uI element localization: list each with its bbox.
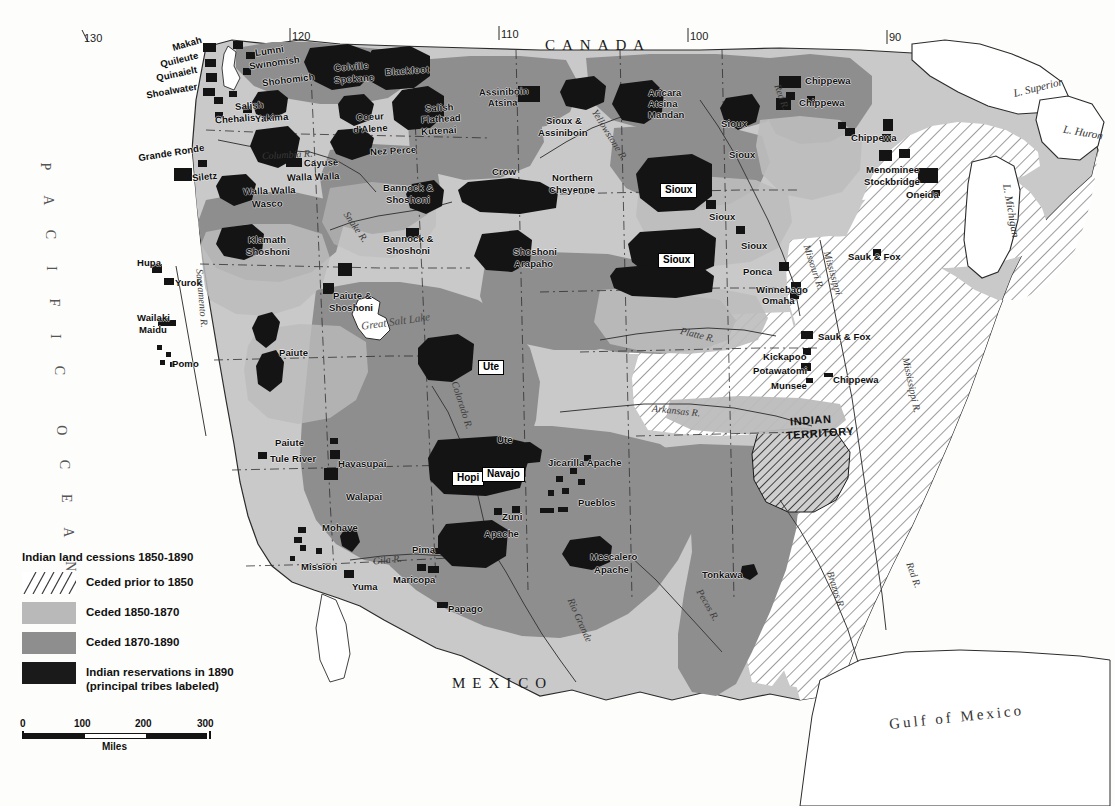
tribe-label-paiute--58: Paiute & <box>333 291 372 301</box>
tribe-label-shoshoni-52: Shoshoni <box>246 247 290 257</box>
scale-bar: 0 100 200 300 Miles <box>22 718 222 752</box>
tribe-label-paiute-61: Paiute <box>275 438 304 448</box>
pacific-ocean-letter-11: A <box>61 527 76 539</box>
legend-row-ceded-prior-1850: Ceded prior to 1850 <box>22 572 272 594</box>
tribe-label-aricara-22: Aricara <box>648 88 681 98</box>
scale-bar-graphic <box>22 731 211 739</box>
tribe-label-wasco-48: Wasco <box>252 198 283 209</box>
tribe-label-jicarilla-apache-74: Jicarilla Apache <box>548 458 622 468</box>
legend-row-ceded-1850-1870: Ceded 1850-1870 <box>22 602 272 624</box>
scale-tick-labels: 0 100 200 300 <box>22 718 222 731</box>
tribe-label-tule-river-62: Tule River <box>270 454 316 464</box>
tribe-label-mission-64: Mission <box>301 562 337 572</box>
tribe-label-menominee-28: Menominee <box>866 165 919 175</box>
graticule-label-100: 100 <box>690 31 708 43</box>
country-label-mexico: MEXICO <box>452 676 553 692</box>
tribe-label-sauk-fox-82: Sauk & Fox <box>848 252 901 262</box>
tribe-label-kickapoo-84: Kickapoo <box>763 352 807 362</box>
tribe-label-walla-walla-46: Walla Walla <box>287 171 340 183</box>
graticule-label-130: 130 <box>84 33 102 45</box>
tribe-label-cheyenne-37: Cheyenne <box>549 185 595 195</box>
tribe-label-pima-69: Pima <box>412 545 435 555</box>
tribe-label-potawatomi-85: Potawatomi <box>753 366 807 376</box>
tribe-label-winnebago-80: Winnebago <box>756 285 808 295</box>
legend-label-reservations: Indian reservations in 1890 <box>86 665 234 679</box>
legend-label-ceded-1870-1890: Ceded 1870-1890 <box>86 632 179 649</box>
graticule-label-120: 120 <box>292 31 310 43</box>
tribe-label-paiute-60: Paiute <box>279 348 308 358</box>
boxed-tribe-label-sioux-0: Sioux <box>660 183 697 198</box>
pacific-ocean-letter-2: C <box>43 230 58 241</box>
tribe-label-arapaho-39: Arapaho <box>514 259 553 269</box>
graticule-label-110: 110 <box>501 29 519 41</box>
tribe-label-mandan-24: Mandan <box>648 110 685 120</box>
scale-unit-label: Miles <box>22 741 207 752</box>
tribe-label-maricopa-70: Maricopa <box>393 575 436 585</box>
pacific-ocean-letter-5: I <box>47 334 62 341</box>
scale-tick-300: 300 <box>197 718 214 729</box>
tribe-label-sioux-32: Sioux <box>729 150 755 160</box>
tribe-label-apache-68: Apache <box>484 529 519 539</box>
graticule-label-90: 90 <box>889 32 901 44</box>
hatch-swatch-icon <box>22 572 76 594</box>
legend-title: Indian land cessions 1850-1890 <box>22 551 272 563</box>
tribe-label-shoshoni-38: Shoshoni <box>513 247 557 257</box>
tribe-label-sauk-fox-83: Sauk & Fox <box>818 332 871 342</box>
tribe-label-shoshoni-59: Shoshoni <box>329 303 373 313</box>
tribe-label-crow-35: Crow <box>492 167 516 177</box>
pacific-ocean-letter-8: O <box>54 425 69 437</box>
scale-tick-100: 100 <box>74 718 91 729</box>
tribe-label-atsina-19: Atsina <box>488 97 518 108</box>
legend-row-ceded-1870-1890: Ceded 1870-1890 <box>22 632 272 654</box>
tribe-label-walla-walla-47: Walla Walla <box>243 185 296 197</box>
tribe-label-walapai-66: Walapai <box>346 492 382 502</box>
tribe-label-yuma-65: Yuma <box>352 582 378 592</box>
tribe-label-kutenai-17: Kutenai <box>421 125 457 137</box>
pacific-ocean-letter-6: C <box>52 366 67 377</box>
tribe-label-shoshoni-41: Shoshoni <box>386 195 430 205</box>
tribe-label-klamath-51: Klamath <box>248 235 286 245</box>
pacific-ocean-letter-9: C <box>56 460 71 471</box>
tribe-label-atsina-23: Atsina <box>648 99 678 109</box>
tribe-label-mescalero-75: Mescalero <box>590 552 637 562</box>
tribe-label-chippewa-25: Chippewa <box>805 76 851 86</box>
legend-swatch-light-gray <box>22 602 76 624</box>
boxed-tribe-label-ute-2: Ute <box>478 360 504 375</box>
tribe-label-tonkawa-78: Tonkawa <box>702 570 743 580</box>
tribe-label-wailaki-55: Wailaki <box>137 313 170 323</box>
legend-label-ceded-1850-1870: Ceded 1850-1870 <box>86 602 179 619</box>
pacific-ocean-letter-0: P <box>38 162 53 172</box>
tribe-label-pueblos-73: Pueblos <box>578 498 616 508</box>
map-page: MakahQuileuteQuinaieltShoalwaterLumniSwi… <box>0 0 1115 806</box>
tribe-label-assiniboin-21: Assiniboin <box>538 128 588 138</box>
legend-swatch-hatch <box>22 572 76 594</box>
tribe-label-stockbridge-29: Stockbridge <box>864 177 920 187</box>
pacific-ocean-letter-3: I <box>43 266 58 273</box>
legend-row-reservations: Indian reservations in 1890 (principal t… <box>22 662 272 694</box>
boxed-tribe-label-sioux-1: Sioux <box>658 253 695 268</box>
tribe-label-sioux-34: Sioux <box>741 241 767 251</box>
pacific-ocean-letter-1: A <box>41 195 56 207</box>
boxed-tribe-label-navajo-4: Navajo <box>482 467 525 482</box>
tribe-label-havasupai-67: Havasupai <box>338 459 386 469</box>
tribe-label-sioux-31: Sioux <box>721 119 747 129</box>
tribe-label-coeur-13: Coeur <box>356 111 384 122</box>
tribe-label-hupa-53: Hupa <box>137 258 161 268</box>
legend-swatch-black <box>22 662 76 684</box>
legend-label-reservations-sub: (principal tribes labeled) <box>86 679 234 693</box>
tribe-label-zuni-72: Zuni <box>502 512 522 522</box>
tribe-label-apache-76: Apache <box>594 565 629 575</box>
tribe-label-maidu-56: Maidu <box>139 325 167 335</box>
pacific-ocean-letter-10: E <box>58 494 73 505</box>
tribe-label-bannock--40: Bannock & <box>383 183 434 193</box>
pacific-ocean-letter-4: F <box>46 298 61 308</box>
tribe-label-sioux--20: Sioux & <box>546 116 582 126</box>
boxed-tribe-label-hopi-3: Hopi <box>452 471 484 486</box>
tribe-label-bannock--42: Bannock & <box>383 234 434 244</box>
legend-swatch-mid-gray <box>22 632 76 654</box>
tribe-label-chippewa-27: Chippewa <box>851 133 897 143</box>
tribe-label-mohave-63: Mohave <box>322 523 358 533</box>
tribe-label-ponca-79: Ponca <box>743 267 772 277</box>
scale-tick-200: 200 <box>135 718 152 729</box>
scale-tick-0: 0 <box>20 718 26 729</box>
